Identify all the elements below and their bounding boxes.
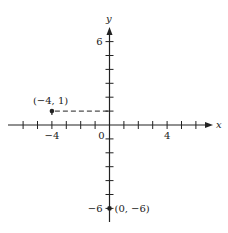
data-points: (−4, 1)(0, −6) <box>33 95 150 214</box>
y-tick-label: 6 <box>96 36 102 47</box>
point-label: (−4, 1) <box>33 95 68 106</box>
y-axis-arrow-icon <box>107 27 113 35</box>
x-axis-label: x <box>216 119 222 130</box>
data-point <box>50 109 55 114</box>
x-tick-label: 4 <box>164 130 170 141</box>
x-tick-label: 0 <box>98 130 104 141</box>
coordinate-plane: −4046−6 x y (−4, 1)(0, −6) <box>0 0 228 233</box>
data-point <box>107 206 112 211</box>
y-axis-label: y <box>105 13 112 24</box>
x-tick-label: −4 <box>45 130 60 141</box>
y-tick-label: −6 <box>88 203 103 214</box>
x-axis-arrow-icon <box>205 122 213 128</box>
point-label: (0, −6) <box>115 203 150 214</box>
